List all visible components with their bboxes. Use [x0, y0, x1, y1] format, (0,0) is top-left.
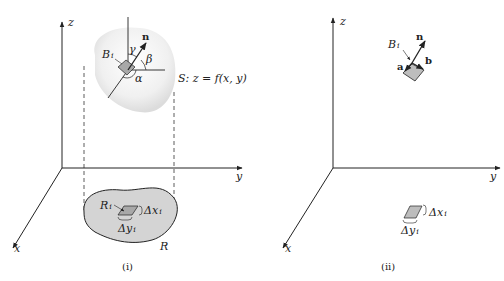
- surface-equation: S: z = f(x, y): [178, 72, 247, 85]
- patch-bi: [403, 64, 424, 81]
- x-axis: [13, 168, 62, 248]
- dy-brace: [403, 220, 417, 223]
- panel-ii: z y x n a b Bi Δxi Δyi (ii): [283, 15, 500, 272]
- x-axis: [283, 168, 333, 248]
- normal-label: n: [142, 31, 150, 42]
- panel-i: z y x n γ β α Bi S: z = f(x, y) R Ri: [13, 16, 247, 272]
- dy-label: Δyi: [400, 224, 419, 237]
- angle-alpha-label: α: [135, 72, 143, 85]
- z-axis-label: z: [339, 15, 346, 28]
- y-axis-label: y: [235, 170, 243, 183]
- subregion: [404, 206, 422, 218]
- x-axis-label: x: [285, 242, 292, 255]
- caption-i: (i): [122, 261, 133, 272]
- figure: z y x n γ β α Bi S: z = f(x, y) R Ri: [0, 0, 504, 281]
- normal-label: n: [416, 31, 424, 42]
- x-axis-label: x: [14, 242, 21, 255]
- dx-label: Δxi: [428, 206, 447, 219]
- dx-brace: [423, 205, 426, 215]
- vector-b-label: b: [425, 55, 432, 66]
- region-label: R: [159, 240, 168, 253]
- patch-pointer: [403, 50, 410, 60]
- angle-beta-label: β: [145, 53, 152, 66]
- z-axis-label: z: [67, 16, 74, 29]
- y-axis-label: y: [489, 170, 497, 183]
- angle-gamma-label: γ: [129, 43, 136, 56]
- vector-a-label: a: [397, 61, 404, 72]
- caption-ii: (ii): [381, 261, 395, 272]
- patch-label: Bi: [387, 38, 400, 51]
- normal-vector: [412, 41, 425, 63]
